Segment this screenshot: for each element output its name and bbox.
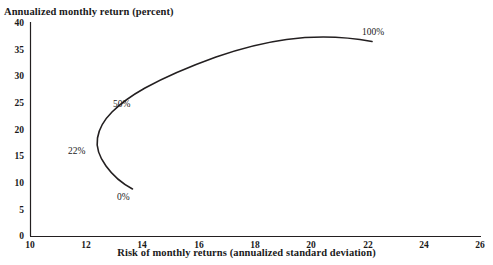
annotation-22-percent: 22% <box>68 146 85 156</box>
x-axis-title: Risk of monthly returns (annualized stan… <box>0 247 493 258</box>
y-tick-40: 40 <box>2 18 24 28</box>
y-tick-10: 10 <box>2 178 24 188</box>
annotation-0-percent: 0% <box>117 192 130 202</box>
y-tick-15: 15 <box>2 151 24 161</box>
annotation-50-percent: 50% <box>113 99 130 109</box>
y-tick-5: 5 <box>2 205 24 215</box>
annotation-100-percent: 100% <box>362 27 384 37</box>
y-tick-25: 25 <box>2 98 24 108</box>
y-tick-30: 30 <box>2 71 24 81</box>
y-tick-20: 20 <box>2 125 24 135</box>
efficient-frontier-curve <box>97 37 372 189</box>
chart-figure: Annualized monthly return (percent) 40 3… <box>0 0 493 265</box>
plot-area <box>0 0 493 265</box>
y-tick-35: 35 <box>2 45 24 55</box>
